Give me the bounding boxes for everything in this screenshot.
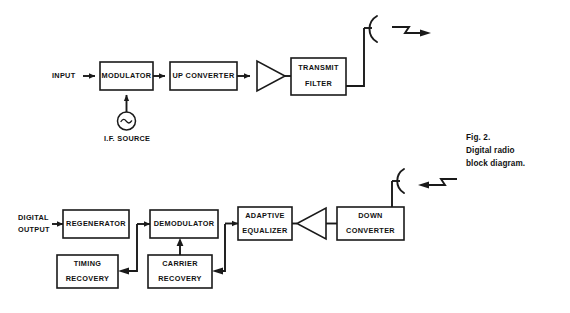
block-transmit-filter: TRANSMIT FILTER: [291, 58, 346, 95]
regenerator-label: REGENERATOR: [66, 219, 126, 228]
caption-line-2: Digital radio: [466, 146, 515, 155]
timing-recovery-label-line1: TIMING: [74, 259, 102, 268]
digital-output-label-line2: OUTPUT: [18, 225, 50, 234]
input-label: INPUT: [52, 71, 76, 80]
block-up-converter: UP CONVERTER: [170, 62, 237, 90]
digital-radio-block-diagram: INPUT MODULATOR UP CONVERTER TRANSMIT FI…: [0, 0, 570, 313]
block-adaptive-equalizer: ADAPTIVE EQUALIZER: [238, 207, 292, 240]
block-regenerator: REGENERATOR: [63, 210, 129, 238]
adaptive-equalizer-label-line2: EQUALIZER: [242, 226, 288, 235]
timing-recovery-label-line2: RECOVERY: [66, 274, 109, 283]
block-down-converter: DOWN CONVERTER: [337, 207, 404, 240]
down-converter-label-line2: CONVERTER: [346, 226, 395, 235]
caption-line-1: Fig. 2.: [466, 133, 490, 142]
block-demodulator: DEMODULATOR: [150, 210, 218, 238]
block-carrier-recovery: CARRIER RECOVERY: [148, 255, 212, 288]
figure-container: INPUT MODULATOR UP CONVERTER TRANSMIT FI…: [0, 0, 570, 313]
digital-output-label-line1: DIGITAL: [18, 213, 49, 222]
block-modulator: MODULATOR: [100, 62, 153, 90]
adaptive-equalizer-label-line1: ADAPTIVE: [245, 211, 285, 220]
carrier-recovery-label-line1: CARRIER: [162, 259, 198, 268]
transmit-filter-label-line1: TRANSMIT: [298, 63, 339, 72]
if-source-label: I.F. SOURCE: [104, 134, 150, 143]
up-converter-label: UP CONVERTER: [172, 71, 234, 80]
carrier-recovery-label-line2: RECOVERY: [158, 274, 201, 283]
block-timing-recovery: TIMING RECOVERY: [57, 255, 118, 288]
caption-line-3: block diagram.: [466, 159, 525, 168]
transmit-filter-label-line2: FILTER: [305, 79, 332, 88]
modulator-label: MODULATOR: [102, 71, 152, 80]
down-converter-label-line1: DOWN: [358, 211, 383, 220]
demodulator-label: DEMODULATOR: [154, 219, 215, 228]
